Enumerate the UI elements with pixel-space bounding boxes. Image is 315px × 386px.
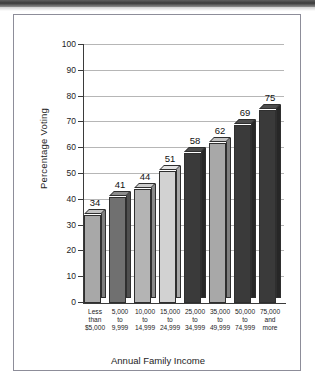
bar-front-face xyxy=(259,110,276,304)
y-axis-tick-label: 40 xyxy=(48,195,76,203)
bar-series xyxy=(84,44,284,303)
bar-top-face xyxy=(109,191,131,196)
x-axis-line xyxy=(83,303,286,304)
bar-side-face xyxy=(176,166,181,298)
bar-value-label: 75 xyxy=(253,92,287,103)
bar-top-wrap xyxy=(209,137,231,143)
bar[interactable] xyxy=(259,110,284,304)
y-axis-tick-label: 90 xyxy=(48,66,76,74)
y-axis-tick-label: 50 xyxy=(48,169,76,177)
bar-front-face xyxy=(184,153,201,303)
bar-front-face xyxy=(84,215,101,303)
bar-top-face xyxy=(159,165,181,170)
bar-top-wrap xyxy=(184,147,206,153)
y-axis-tick-label: 60 xyxy=(48,143,76,151)
bar[interactable] xyxy=(84,215,109,303)
bar-top-wrap xyxy=(84,209,106,215)
page-header-strip xyxy=(0,0,315,7)
bar[interactable] xyxy=(234,125,259,303)
bar-top-wrap xyxy=(234,119,256,125)
bar-top-wrap xyxy=(134,183,156,189)
bar-side-face xyxy=(251,120,256,298)
bar[interactable] xyxy=(134,189,159,303)
bar-top-wrap xyxy=(259,104,281,110)
y-axis-tick-label: 10 xyxy=(48,272,76,280)
bar-top-face xyxy=(209,137,231,142)
bar-value-label: 58 xyxy=(178,135,212,146)
bar-front-face xyxy=(209,143,226,303)
bar-top-wrap xyxy=(109,191,131,197)
y-axis-tick-label: 70 xyxy=(48,117,76,125)
bar-side-face xyxy=(126,192,131,298)
bar-value-label: 44 xyxy=(128,171,162,182)
bar-front-face xyxy=(109,197,126,303)
bar-side-face xyxy=(276,105,281,299)
bar-front-face xyxy=(234,125,251,303)
bar[interactable] xyxy=(109,197,134,303)
bar-top-face xyxy=(84,209,106,214)
bar-top-face xyxy=(184,147,206,152)
y-axis-tick-label: 30 xyxy=(48,221,76,229)
x-axis-category-label: 75,000andmore xyxy=(255,308,285,333)
y-axis-tick-label: 20 xyxy=(48,246,76,254)
bar-value-label: 34 xyxy=(78,197,112,208)
bar-top-wrap xyxy=(159,165,181,171)
x-axis-category-labels: Lessthan$5,0005,000to9,99910,000to14,999… xyxy=(84,308,289,352)
x-axis-category-line: and xyxy=(255,316,285,324)
y-axis-title: Percentage Voting xyxy=(38,74,49,224)
x-axis-category-line: 75,000 xyxy=(255,308,285,316)
y-axis-tick-label: 0 xyxy=(48,298,76,306)
bar-side-face xyxy=(101,210,106,298)
bar-value-label: 62 xyxy=(203,125,237,136)
bar-side-face xyxy=(201,148,206,298)
bar-top-face xyxy=(234,119,256,124)
bar-front-face xyxy=(159,171,176,303)
figure-container: 0102030405060708090100 3441445158626975 … xyxy=(13,14,301,371)
bar-front-face xyxy=(134,189,151,303)
bar-side-face xyxy=(226,138,231,298)
page-header-shadow xyxy=(0,7,315,11)
bar-top-face xyxy=(259,104,281,109)
y-axis-tick-label: 80 xyxy=(48,92,76,100)
bar-top-face xyxy=(134,183,156,188)
x-axis-category-line: more xyxy=(255,324,285,332)
x-axis-title: Annual Family Income xyxy=(14,355,302,366)
bar[interactable] xyxy=(159,171,184,303)
bar-side-face xyxy=(151,184,156,298)
bar-value-label: 51 xyxy=(153,153,187,164)
bar[interactable] xyxy=(209,143,234,303)
y-axis-tick-label: 100 xyxy=(48,40,76,48)
chart-page: 0102030405060708090100 3441445158626975 … xyxy=(0,0,315,386)
bar-value-label: 69 xyxy=(228,107,262,118)
bar[interactable] xyxy=(184,153,209,303)
